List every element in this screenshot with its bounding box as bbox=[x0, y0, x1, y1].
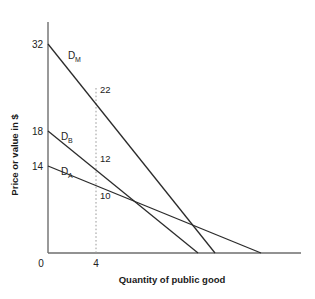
curve-label-b: D B bbox=[61, 131, 73, 144]
y-tick-label-18: 18 bbox=[32, 126, 44, 137]
x-tick-label-0: 0 bbox=[38, 258, 44, 269]
annotation-value-10: 10 bbox=[100, 190, 111, 201]
y-tick-label-14: 14 bbox=[32, 161, 44, 172]
curve-label-a-subscript: A bbox=[68, 172, 73, 179]
curve-label-b-subscript: B bbox=[68, 137, 73, 144]
demand-curve-b bbox=[48, 131, 198, 253]
demand-curve-market bbox=[48, 44, 215, 253]
demand-curve-a bbox=[48, 166, 261, 253]
curve-label-market-subscript: M bbox=[75, 56, 81, 63]
chart-figure: 32 18 14 0 4 D M D B D A 22 12 10 Price … bbox=[0, 0, 315, 299]
annotation-value-12: 12 bbox=[100, 153, 111, 164]
y-tick-label-32: 32 bbox=[32, 39, 44, 50]
x-tick-label-4: 4 bbox=[93, 258, 99, 269]
annotation-value-22: 22 bbox=[100, 84, 111, 95]
y-axis-title: Price or value in $ bbox=[9, 114, 20, 196]
public-good-demand-chart: 32 18 14 0 4 D M D B D A 22 12 10 Price … bbox=[0, 0, 315, 299]
curve-label-market: D M bbox=[68, 50, 81, 63]
curve-label-a: D A bbox=[61, 166, 73, 179]
x-axis-title: Quantity of public good bbox=[119, 274, 226, 285]
